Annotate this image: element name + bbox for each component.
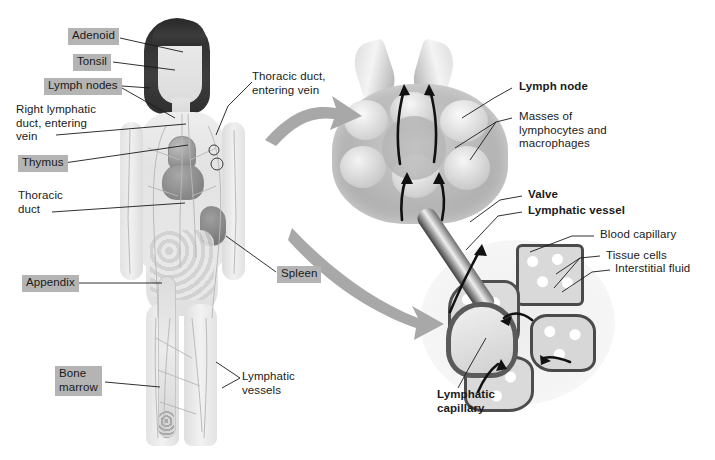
chest-organ: [162, 164, 204, 200]
label-lymph-node: Lymph node: [519, 80, 588, 94]
tissue-cell-block: [516, 244, 584, 306]
lymphatic-capillary-vessel: [446, 302, 518, 378]
label-valve: Valve: [528, 188, 558, 202]
label-tissue-cells: Tissue cells: [606, 249, 667, 263]
lymphocyte-mass: [440, 100, 488, 142]
label-lymphatic-vessel: Lymphatic vessel: [528, 204, 625, 218]
hair-fringe-icon: [152, 20, 206, 46]
lymphatic-capillary-bed: [420, 228, 615, 413]
medullary-sinus: [382, 116, 446, 180]
label-lymphatic-vessels: Lymphatic vessels: [242, 370, 295, 397]
lymphocyte-mass: [444, 146, 490, 190]
label-interstitial-fluid: Interstitial fluid: [615, 262, 690, 276]
label-bone-marrow: Bone marrow: [55, 366, 102, 396]
tissue-cell-block: [530, 314, 596, 372]
label-right-lymphatic-duct: Right lymphatic duct, entering vein: [16, 103, 96, 144]
label-appendix: Appendix: [22, 275, 79, 292]
lymphocyte-mass: [340, 146, 386, 188]
left-arm: [120, 122, 143, 280]
lymphatic-system-figure: Adenoid Tonsil Lymph nodes Right lymphat…: [0, 0, 715, 460]
lymphocyte-mass: [344, 100, 388, 140]
label-thymus: Thymus: [18, 155, 68, 172]
label-tonsil: Tonsil: [73, 54, 111, 71]
label-lymphatic-capillary: Lymphatic capillary: [437, 388, 495, 415]
label-spleen: Spleen: [277, 266, 321, 283]
label-thoracic-duct-entering-vein: Thoracic duct, entering vein: [252, 70, 326, 97]
lymph-node-cross-section: [330, 42, 515, 232]
bone-marrow-region: [159, 410, 174, 438]
label-adenoid: Adenoid: [68, 28, 119, 45]
right-arm: [222, 122, 245, 280]
label-blood-capillary: Blood capillary: [600, 228, 676, 242]
label-thoracic-duct: Thoracic duct: [18, 189, 63, 216]
label-masses-lymphocytes-macrophages: Masses of lymphocytes and macrophages: [519, 110, 607, 151]
right-leg: [184, 304, 217, 446]
label-lymph-nodes: Lymph nodes: [44, 78, 122, 95]
